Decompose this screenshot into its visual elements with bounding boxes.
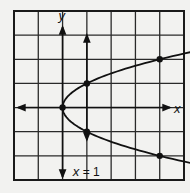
data-point: [84, 80, 90, 86]
x-axis-label: x: [173, 101, 181, 116]
axes: [18, 27, 170, 177]
vertical-line-label: x = 1: [72, 164, 100, 179]
data-point: [157, 153, 163, 159]
data-point: [59, 104, 65, 110]
data-point: [84, 129, 90, 135]
graph: x y x = 1: [0, 0, 190, 193]
vertical-line-label-eq: = 1: [79, 165, 100, 179]
data-point: [157, 56, 163, 62]
